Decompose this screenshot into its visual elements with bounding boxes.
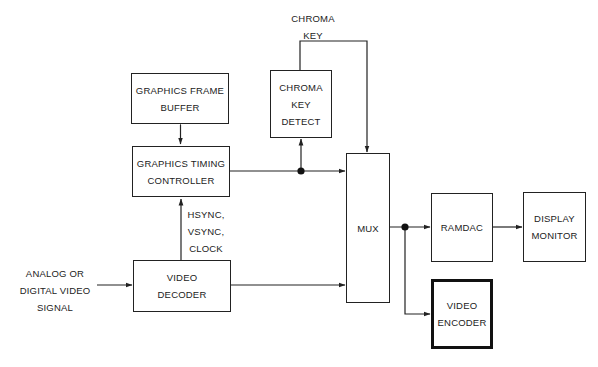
block-label: BUFFER [160,99,199,116]
mux-to-encoder-arrow [405,227,430,314]
block-label: KEY [291,96,311,113]
graphics-frame-buffer-block: GRAPHICS FRAME BUFFER [131,73,229,124]
block-label: DECODER [158,286,207,303]
block-label: DISPLAY [534,210,575,227]
chroma-key-label: CHROMA KEY [282,10,344,44]
block-label: CONTROLLER [148,172,215,189]
display-monitor-block: DISPLAY MONITOR [523,192,586,262]
video-decoder-block: VIDEO DECODER [133,260,231,312]
block-label: RAMDAC [441,219,483,236]
block-label: CHROMA [279,79,322,96]
sync-signals-label: HSYNC, VSYNC, CLOCK [182,206,230,257]
label-line: CHROMA [282,10,344,27]
block-label: VIDEO [167,269,198,286]
block-label: GRAPHICS FRAME [136,82,224,99]
video-encoder-block: VIDEO ENCODER [431,279,493,349]
mux-block: MUX [346,153,390,303]
block-label: DETECT [281,113,320,130]
video-graphics-block-diagram: GRAPHICS FRAME BUFFER GRAPHICS TIMING CO… [0,0,598,367]
junction-dot [401,223,408,230]
ramdac-block: RAMDAC [431,193,493,262]
label-line: KEY [282,27,344,44]
junction-dot [297,167,304,174]
label-line: DIGITAL VIDEO [12,282,98,299]
block-label: VIDEO [447,297,478,314]
label-line: VSYNC, [182,223,230,240]
chroma-key-detect-block: CHROMA KEY DETECT [270,70,332,138]
block-label: MONITOR [531,227,577,244]
label-line: ANALOG OR [12,265,98,282]
block-label: MUX [357,220,379,237]
label-line: SIGNAL [12,299,98,316]
graphics-timing-controller-block: GRAPHICS TIMING CONTROLLER [132,146,230,197]
block-label: ENCODER [438,314,487,331]
input-signal-label: ANALOG OR DIGITAL VIDEO SIGNAL [12,265,98,316]
label-line: CLOCK [182,240,230,257]
label-line: HSYNC, [182,206,230,223]
block-label: GRAPHICS TIMING [137,155,225,172]
